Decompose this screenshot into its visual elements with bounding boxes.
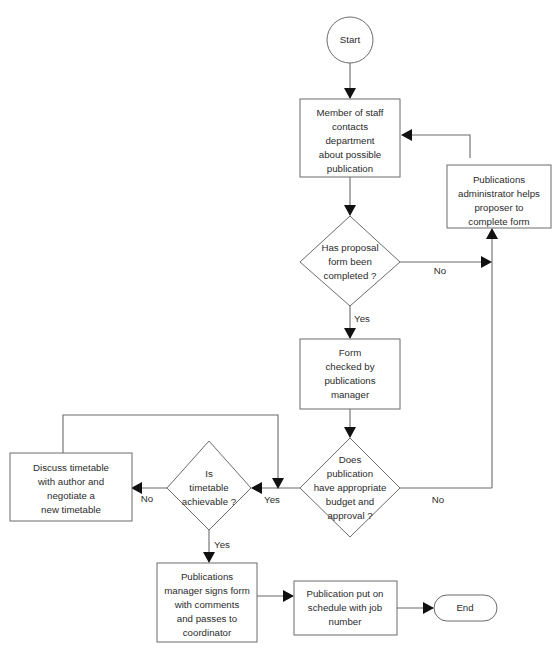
arrow-into-contact-right: [401, 129, 412, 141]
contact-line-4: about possible: [319, 149, 381, 160]
contact-line-1: Member of staff: [316, 107, 383, 118]
arrow-into-end: [423, 602, 434, 614]
schedule-job-line-3: number: [329, 616, 363, 627]
arrow-formcompleted-no-end: [481, 256, 492, 268]
timetable-achievable-line-2: timetable: [189, 482, 228, 493]
discuss-timetable-line-4: new timetable: [41, 504, 101, 515]
flowchart-canvas: Start Member of staff contacts departmen…: [0, 0, 559, 657]
node-contact[interactable]: Member of staff contacts department abou…: [300, 99, 400, 177]
edge-label-timetable-no: No: [141, 493, 153, 504]
node-manager-signs[interactable]: Publications manager signs form with com…: [157, 563, 257, 642]
start-label: Start: [340, 34, 361, 45]
form-checked-line-3: publications: [324, 375, 375, 386]
node-timetable-achievable[interactable]: Is timetable achievable ?: [167, 441, 251, 530]
node-start[interactable]: Start: [327, 17, 373, 63]
budget-approval-line-2: publication: [327, 468, 373, 479]
node-budget-approval[interactable]: Does publication have appropriate budget…: [300, 438, 400, 537]
edge-label-formcompleted-yes: Yes: [354, 313, 370, 324]
budget-approval-line-3: have appropriate: [314, 482, 387, 493]
budget-approval-line-1: Does: [339, 454, 362, 465]
node-admin-helps[interactable]: Publications administrator helps propose…: [447, 165, 551, 228]
budget-approval-line-5: approval ?: [327, 510, 373, 521]
timetable-achievable-line-3: achievable ?: [182, 496, 237, 507]
contact-line-2: contacts: [332, 121, 368, 132]
discuss-timetable-line-1: Discuss timetable: [33, 462, 109, 473]
connectors: [63, 60, 492, 608]
admin-helps-line-3: proposer to: [474, 202, 523, 213]
schedule-job-line-1: Publication put on: [306, 588, 383, 599]
edge-label-formcompleted-no: No: [434, 265, 446, 276]
manager-signs-line-2: manager signs form: [164, 585, 250, 596]
discuss-timetable-line-2: with author and: [37, 476, 104, 487]
form-checked-line-4: manager: [331, 389, 370, 400]
arrow-into-admin-bottom: [486, 228, 498, 239]
arrow-into-schedule: [283, 590, 294, 602]
admin-helps-line-4: complete form: [468, 216, 529, 227]
schedule-job-line-2: schedule with job: [308, 602, 382, 613]
manager-signs-line-3: with comments: [174, 599, 240, 610]
contact-line-5: publication: [327, 163, 373, 174]
manager-signs-line-4: and passes to: [177, 613, 237, 624]
edge-label-budget-no: No: [432, 494, 444, 505]
timetable-achievable-line-1: Is: [205, 468, 213, 479]
form-completed-line-2: form been: [328, 256, 372, 267]
arrow-into-contact-top: [344, 88, 356, 99]
node-discuss-timetable[interactable]: Discuss timetable with author and negoti…: [10, 453, 132, 521]
arrow-into-budget: [344, 427, 356, 438]
arrow-into-timetable-right: [251, 482, 262, 494]
form-completed-line-1: Has proposal: [321, 242, 378, 253]
budget-approval-line-4: budget and: [326, 496, 375, 507]
admin-helps-line-1: Publications: [473, 174, 525, 185]
arrow-into-managersigns: [203, 552, 215, 563]
manager-signs-line-1: Publications: [181, 571, 233, 582]
arrow-into-formcompleted: [344, 205, 356, 216]
form-checked-line-1: Form: [339, 347, 362, 358]
node-form-completed[interactable]: Has proposal form been completed ?: [300, 216, 400, 306]
node-schedule-job[interactable]: Publication put on schedule with job num…: [294, 581, 397, 635]
arrow-into-formchecked: [344, 328, 356, 339]
node-form-checked[interactable]: Form checked by publications manager: [300, 339, 400, 409]
edge-label-timetable-yes: Yes: [214, 539, 230, 550]
discuss-timetable-line-3: negotiate a: [47, 490, 96, 501]
form-completed-line-3: completed ?: [324, 270, 377, 281]
form-checked-line-2: checked by: [325, 361, 374, 372]
node-end[interactable]: End: [434, 595, 497, 621]
contact-line-3: department: [325, 135, 374, 146]
end-label: End: [456, 602, 473, 613]
admin-helps-line-2: administrator helps: [458, 188, 540, 199]
edge-admin-to-contact: [410, 135, 470, 158]
arrow-discuss-loop-down: [272, 478, 284, 489]
manager-signs-line-5: coordinator: [183, 627, 232, 638]
edge-label-budget-yes: Yes: [264, 494, 280, 505]
